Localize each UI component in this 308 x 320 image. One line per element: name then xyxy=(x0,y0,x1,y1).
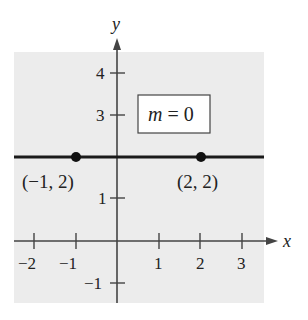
point-label: (−1, 2) xyxy=(22,171,74,193)
y-axis-arrow-icon xyxy=(113,38,121,50)
x-axis-arrow-icon xyxy=(266,237,278,245)
x-tick-label: 3 xyxy=(237,254,246,273)
point-label: (2, 2) xyxy=(177,171,218,193)
y-axis-label: y xyxy=(110,14,120,34)
y-tick-label: 4 xyxy=(96,64,105,83)
x-tick-label: −2 xyxy=(18,254,36,273)
x-axis-label: x xyxy=(282,231,291,251)
chart: y x −2 −1 1 2 3 4 3 1 −1 (−1, 2) (2, 2) … xyxy=(0,0,308,320)
point-neg1-2 xyxy=(71,152,81,162)
y-tick-label: 1 xyxy=(98,189,107,208)
y-tick-label: 3 xyxy=(96,106,105,125)
x-tick-label: −1 xyxy=(59,254,77,273)
y-tick-label: −1 xyxy=(84,274,102,293)
point-2-2 xyxy=(196,152,206,162)
x-tick-label: 1 xyxy=(154,254,163,273)
x-tick-label: 2 xyxy=(196,254,205,273)
slope-annotation: m = 0 xyxy=(148,103,194,125)
